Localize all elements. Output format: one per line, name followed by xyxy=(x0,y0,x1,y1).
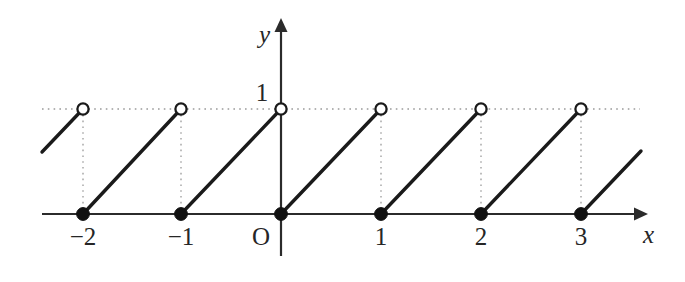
ramp-segment-one xyxy=(381,109,481,214)
closed-point-minus-2 xyxy=(77,208,90,221)
open-point-zero xyxy=(275,103,286,114)
open-point-one xyxy=(375,103,386,114)
y-axis-label: y xyxy=(259,22,270,47)
open-point-minus-2 xyxy=(77,103,88,114)
ramp-segment-minus-3 xyxy=(42,109,83,152)
origin-label: O xyxy=(252,224,270,249)
y-axis-arrowhead xyxy=(275,18,288,32)
x-tick-label-minus-1: −1 xyxy=(168,224,195,249)
closed-point-three xyxy=(575,208,588,221)
x-tick-label-minus-2: −2 xyxy=(70,224,97,249)
closed-point-one xyxy=(375,208,388,221)
ramp-segment-two xyxy=(481,109,581,214)
ramp-segment-zero xyxy=(281,109,381,214)
x-tick-label-1: 1 xyxy=(375,224,388,249)
ramp-segment-minus-2 xyxy=(83,109,181,214)
open-point-minus-1 xyxy=(175,103,186,114)
y-tick-label-1: 1 xyxy=(256,80,269,105)
x-axis-label: x xyxy=(643,222,654,247)
x-tick-label-3: 3 xyxy=(575,224,588,249)
closed-point-zero xyxy=(275,208,288,221)
open-point-two xyxy=(475,103,486,114)
graph-figure: y x 1 −2 −1 O 1 2 3 xyxy=(0,0,685,282)
closed-point-minus-1 xyxy=(175,208,188,221)
ramp-segment-three xyxy=(581,151,641,214)
ramp-segment-minus-1 xyxy=(181,109,281,214)
open-point-three xyxy=(575,103,586,114)
x-axis-arrowhead xyxy=(634,208,648,221)
closed-point-two xyxy=(475,208,488,221)
x-tick-label-2: 2 xyxy=(475,224,488,249)
